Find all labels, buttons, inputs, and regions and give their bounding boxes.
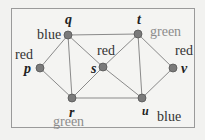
node-s <box>99 63 107 71</box>
color-label-u: blue <box>157 110 181 124</box>
node-label-u: u <box>142 104 149 118</box>
edge-r-s <box>72 67 103 98</box>
node-u <box>138 94 146 102</box>
color-label-v: red <box>175 44 193 58</box>
color-label-s: red <box>97 44 115 58</box>
node-t <box>134 30 142 38</box>
node-label-q: q <box>65 13 72 27</box>
edge-s-u <box>103 67 142 98</box>
node-label-p: p <box>24 62 31 76</box>
node-v <box>169 64 177 72</box>
edge-q-r <box>68 35 72 98</box>
node-p <box>36 64 44 72</box>
color-label-t: green <box>150 25 181 39</box>
node-label-s: s <box>91 62 96 76</box>
color-label-q: blue <box>37 28 61 42</box>
node-r <box>68 94 76 102</box>
edge-q-t <box>68 34 138 35</box>
color-label-p: red <box>15 48 33 62</box>
node-q <box>64 31 72 39</box>
color-label-r: green <box>53 115 84 129</box>
edge-u-v <box>142 68 173 98</box>
edge-t-v <box>138 34 173 68</box>
edge-p-r <box>40 68 72 98</box>
node-label-v: v <box>181 62 187 76</box>
edge-t-u <box>138 34 142 98</box>
node-label-t: t <box>137 13 141 27</box>
